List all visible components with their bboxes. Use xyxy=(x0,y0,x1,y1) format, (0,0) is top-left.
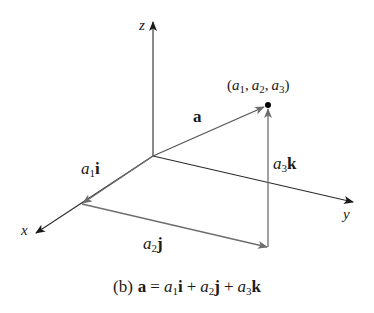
point-label: (a1,a2,a3) xyxy=(227,77,290,95)
a2j-vector xyxy=(82,204,267,247)
z-axis-label: z xyxy=(138,17,145,33)
a1i-label: a1i xyxy=(81,159,100,179)
a-vector xyxy=(153,107,264,156)
y-axis-label: y xyxy=(341,206,350,222)
y-axis xyxy=(153,156,353,202)
x-axis-label: x xyxy=(20,222,28,238)
point-marker xyxy=(265,102,271,108)
a2j-label: a2j xyxy=(143,234,163,254)
a-vector-label: a xyxy=(193,107,202,126)
a3k-label: a3k xyxy=(273,154,297,174)
figure-caption: (b)a=a1i+a2j+a3k xyxy=(113,277,262,297)
a1i-vector xyxy=(83,156,153,203)
vector-component-diagram: z x y a (a1,a2,a3) a1i a2j a3k (b)a=a1i+… xyxy=(0,0,374,313)
